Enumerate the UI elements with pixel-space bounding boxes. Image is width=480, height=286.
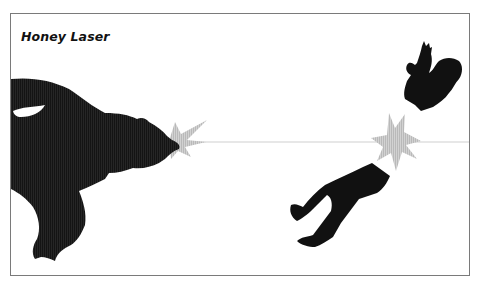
muzzle-flash-icon xyxy=(169,120,207,159)
scene-illustration xyxy=(11,14,470,276)
impact-burst-icon xyxy=(371,113,421,171)
bear-silhouette-icon xyxy=(11,78,180,261)
person-lower-body-icon xyxy=(290,163,390,247)
person-upper-body-icon xyxy=(404,41,462,111)
illustration-frame: Honey Laser xyxy=(10,13,470,276)
